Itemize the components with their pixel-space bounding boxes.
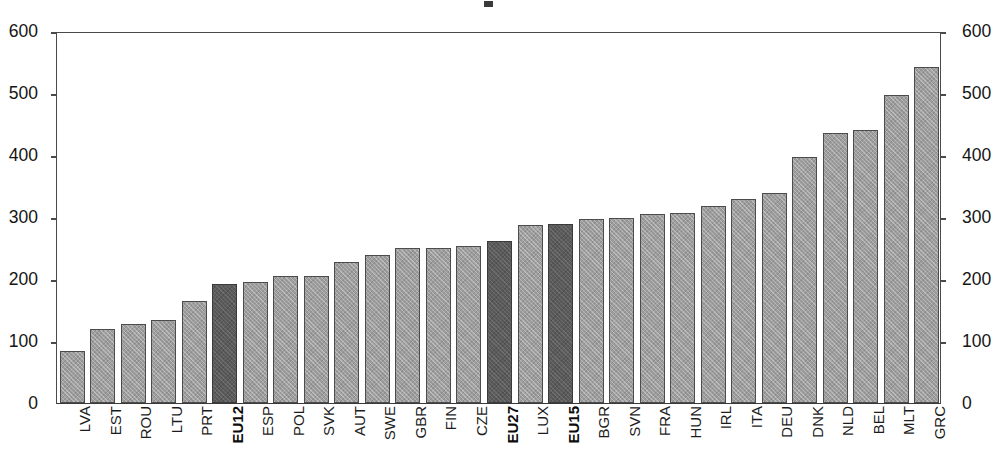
y-tick-right-300 (940, 218, 946, 219)
x-axis-label-aut: AUT (352, 406, 367, 436)
y-tick-right-200 (940, 280, 946, 281)
x-axis-label-ita: ITA (749, 406, 764, 428)
cropped-title-artifact (484, 1, 493, 7)
x-axis-label-ltu: LTU (169, 406, 184, 433)
y-tick-left-300 (51, 218, 57, 219)
bar-bgr (579, 219, 604, 403)
bar-lux (518, 225, 543, 403)
y-tick-right-500 (940, 94, 946, 95)
y-axis-label-right-300: 300 (962, 209, 991, 227)
y-tick-right-600 (940, 32, 946, 33)
x-axis-label-swe: SWE (382, 406, 397, 440)
bar-nld (823, 133, 848, 403)
bar-aut (334, 262, 359, 403)
y-axis-label-right-400: 400 (962, 147, 991, 165)
bar-prt (182, 301, 207, 403)
y-axis-label-left-600: 600 (9, 23, 38, 41)
x-axis-label-eu27: EU27 (505, 406, 520, 444)
x-axis-label-deu: DEU (779, 406, 794, 438)
y-tick-right-400 (940, 156, 946, 157)
y-axis-right: 0100200300400500600 (950, 32, 997, 404)
bar-dnk (792, 157, 817, 403)
x-axis-label-hun: HUN (688, 406, 703, 439)
x-axis-label-fra: FRA (657, 406, 672, 436)
x-axis-label-nld: NLD (840, 406, 855, 436)
bar-hun (670, 213, 695, 403)
y-axis-label-left-400: 400 (9, 147, 38, 165)
y-axis-label-left-200: 200 (9, 271, 38, 289)
bar-pol (273, 276, 298, 403)
bar-irl (701, 206, 726, 403)
y-axis-label-left-100: 100 (9, 333, 38, 351)
x-axis-label-eu12: EU12 (230, 406, 245, 444)
y-tick-left-500 (51, 94, 57, 95)
x-axis-label-svn: SVN (627, 406, 642, 437)
bar-deu (762, 193, 787, 403)
y-tick-left-400 (51, 156, 57, 157)
y-axis-label-right-100: 100 (962, 333, 991, 351)
x-axis-label-dnk: DNK (810, 406, 825, 438)
x-axis-label-prt: PRT (199, 406, 214, 436)
y-tick-left-200 (51, 280, 57, 281)
x-axis-label-esp: ESP (260, 406, 275, 436)
bar-mlt (884, 95, 909, 403)
x-axis-label-mlt: MLT (901, 406, 916, 435)
x-axis-label-grc: GRC (932, 406, 947, 439)
bar-grc (914, 67, 939, 403)
bar-eu12 (212, 284, 237, 403)
y-tick-left-600 (51, 32, 57, 33)
bar-rou (121, 324, 146, 403)
bar-swe (365, 255, 390, 403)
bar-fra (640, 214, 665, 403)
x-axis-label-cze: CZE (474, 406, 489, 436)
y-axis-label-left-0: 0 (28, 395, 38, 413)
bar-bel (853, 130, 878, 403)
y-axis-label-left-300: 300 (9, 209, 38, 227)
x-axis-label-bgr: BGR (596, 406, 611, 439)
y-axis-label-right-500: 500 (962, 85, 991, 103)
bar-series (57, 33, 940, 403)
x-axis-label-est: EST (108, 406, 123, 435)
bar-lva (60, 351, 85, 403)
y-tick-left-100 (51, 342, 57, 343)
x-axis-label-pol: POL (291, 406, 306, 436)
y-axis-label-right-600: 600 (962, 23, 991, 41)
bar-ltu (151, 320, 176, 403)
x-axis-label-rou: ROU (138, 406, 153, 439)
y-axis-label-right-200: 200 (962, 271, 991, 289)
bar-gbr (395, 248, 420, 403)
bar-chart: 0100200300400500600 0100200300400500600 … (0, 0, 997, 459)
x-axis-label-bel: BEL (871, 406, 886, 434)
x-axis-label-svk: SVK (321, 406, 336, 436)
plot-area (56, 32, 941, 404)
x-axis-label-eu15: EU15 (566, 406, 581, 444)
bar-eu15 (548, 224, 573, 403)
bar-svk (304, 276, 329, 403)
x-axis-label-fin: FIN (443, 406, 458, 430)
y-axis-left: 0100200300400500600 (0, 32, 46, 404)
bar-esp (243, 282, 268, 403)
bar-est (90, 329, 115, 403)
x-axis-label-gbr: GBR (413, 406, 428, 439)
bar-fin (426, 248, 451, 403)
bar-eu27 (487, 241, 512, 403)
bar-ita (731, 199, 756, 403)
y-axis-label-left-500: 500 (9, 85, 38, 103)
y-axis-label-right-0: 0 (962, 395, 972, 413)
y-tick-right-100 (940, 342, 946, 343)
x-axis-label-lux: LUX (535, 406, 550, 435)
bar-svn (609, 218, 634, 403)
x-axis-label-lva: LVA (77, 406, 92, 432)
x-axis-label-irl: IRL (718, 406, 733, 429)
bar-cze (456, 246, 481, 403)
x-axis-category-labels: LVAESTROULTUPRTEU12ESPPOLSVKAUTSWEGBRFIN… (56, 406, 941, 459)
